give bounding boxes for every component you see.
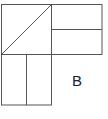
diagram-figure	[0, 0, 108, 119]
diagonal-line	[2, 5, 52, 55]
region-label-b: B	[72, 73, 82, 88]
